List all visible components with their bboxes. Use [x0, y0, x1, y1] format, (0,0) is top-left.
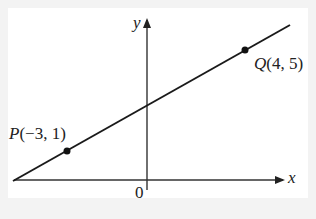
coordinate-diagram: y x 0 P(−3, 1) Q(4, 5)	[0, 0, 316, 219]
y-axis-label: y	[131, 13, 141, 32]
origin-label: 0	[135, 183, 144, 202]
line-pq	[13, 25, 290, 181]
point-q-label: Q(4, 5)	[254, 54, 303, 73]
point-p-label: P(−3, 1)	[8, 124, 66, 143]
x-axis-label: x	[287, 168, 296, 187]
point-p	[64, 148, 71, 155]
point-q	[242, 47, 249, 54]
